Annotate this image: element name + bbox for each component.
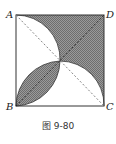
label-b: B: [5, 101, 13, 112]
label-a: A: [5, 9, 13, 20]
label-d: D: [105, 9, 114, 20]
label-c: C: [106, 101, 114, 112]
figure-caption: 图 9-80: [0, 119, 116, 132]
